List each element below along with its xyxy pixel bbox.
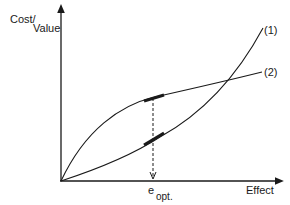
y-axis-label-value: Value	[33, 23, 60, 34]
optimum-label: e	[148, 185, 154, 196]
curve-2	[61, 72, 262, 181]
tangent-mark-curve-1	[144, 133, 164, 145]
y-axis-label-cost: Cost/	[10, 14, 36, 25]
curve-1-label: (1)	[264, 25, 277, 36]
tangent-mark-curve-2	[144, 95, 164, 101]
optimum-label-subscript: opt.	[156, 192, 173, 202]
curve-2-label: (2)	[264, 67, 277, 78]
curve-1	[61, 28, 263, 181]
x-axis-label: Effect	[246, 185, 274, 196]
